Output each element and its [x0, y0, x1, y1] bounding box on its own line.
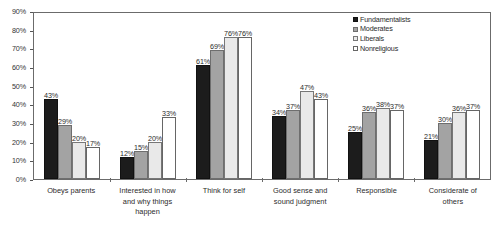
x-axis-label-line: Considerate of — [416, 186, 490, 197]
bar-slot: 25% — [348, 132, 362, 179]
bar[interactable]: 61% — [196, 65, 210, 179]
x-axis-category-label: Responsible — [338, 186, 414, 230]
bar-slot: 76% — [224, 37, 238, 179]
bar[interactable]: 34% — [272, 116, 286, 179]
y-axis: 0%10%20%30%40%50%60%70%80%90% — [0, 12, 30, 180]
bar[interactable]: 29% — [58, 125, 72, 179]
bar[interactable]: 76% — [224, 37, 238, 179]
x-axis-label-line: Interested in how — [110, 186, 184, 197]
bar-slot: 36% — [362, 112, 376, 179]
bar[interactable]: 21% — [424, 140, 438, 179]
bar[interactable]: 12% — [120, 157, 134, 179]
bar-value-label: 69% — [210, 43, 224, 51]
bar-slot: 36% — [452, 112, 466, 179]
bar[interactable]: 76% — [238, 37, 252, 179]
bar-slot: 37% — [286, 110, 300, 179]
x-axis-category-label: Think for self — [186, 186, 262, 230]
x-axis-category-label: Obeys parents — [33, 186, 109, 230]
legend-item-label: Fundamentalists — [360, 16, 410, 24]
bar-slot: 15% — [134, 151, 148, 179]
bar-value-label: 36% — [452, 104, 466, 112]
bar-group: 34%37%47%43% — [262, 13, 338, 179]
x-axis-label-line: Responsible — [339, 186, 413, 197]
bar-slot: 12% — [120, 157, 134, 179]
bar-slot: 33% — [162, 117, 176, 179]
x-axis-category-label: Interested in howand why thingshappen — [109, 186, 185, 230]
legend-item[interactable]: Nonreligious — [353, 44, 444, 54]
bar[interactable]: 36% — [362, 112, 376, 179]
bar-value-label: 21% — [424, 132, 438, 140]
y-axis-tick-label: 50% — [0, 83, 30, 90]
bar-slot: 20% — [72, 142, 86, 179]
bar-slot: 37% — [390, 110, 404, 179]
bar-slot: 29% — [58, 125, 72, 179]
bar-value-label: 38% — [376, 101, 390, 109]
legend-item[interactable]: Fundamentalists — [353, 15, 444, 25]
x-axis-category-label: Good sense andsound judgment — [262, 186, 338, 230]
bar-group: 43%29%20%17% — [34, 13, 110, 179]
y-axis-tick-label: 70% — [0, 46, 30, 53]
bar[interactable]: 69% — [210, 50, 224, 179]
y-axis-tick-label: 0% — [0, 176, 30, 183]
bar-value-label: 43% — [44, 91, 58, 99]
bar[interactable]: 43% — [314, 99, 328, 179]
bar[interactable]: 15% — [134, 151, 148, 179]
bar-slot: 30% — [438, 123, 452, 179]
bar-slot: 20% — [148, 142, 162, 179]
bar-value-label: 20% — [72, 134, 86, 142]
legend-item[interactable]: Liberals — [353, 34, 444, 44]
x-axis-category-labels: Obeys parentsInterested in howand why th… — [33, 186, 491, 230]
bar-value-label: 30% — [438, 116, 452, 124]
bar-group: 61%69%76%76% — [186, 13, 262, 179]
bar[interactable]: 17% — [86, 147, 100, 179]
bar[interactable]: 33% — [162, 117, 176, 179]
bar-value-label: 76% — [238, 30, 252, 38]
bar-value-label: 37% — [466, 102, 480, 110]
bar-value-label: 36% — [362, 104, 376, 112]
bar-slot: 37% — [466, 110, 480, 179]
x-axis-label-line: Think for self — [187, 186, 261, 197]
x-axis-label-line: sound judgment — [263, 197, 337, 208]
x-axis-label-line: Good sense and — [263, 186, 337, 197]
legend-item-label: Moderates — [360, 25, 393, 33]
legend-swatch-icon — [353, 27, 358, 32]
y-axis-tick-label: 80% — [0, 27, 30, 34]
legend-item-label: Nonreligious — [360, 45, 398, 53]
bar[interactable]: 25% — [348, 132, 362, 179]
bar-slot: 47% — [300, 91, 314, 179]
bar-value-label: 33% — [162, 110, 176, 118]
y-axis-tick-label: 10% — [0, 158, 30, 165]
bar-slot: 61% — [196, 65, 210, 179]
x-axis-category-label: Considerate ofothers — [415, 186, 491, 230]
legend-item[interactable]: Moderates — [353, 25, 444, 35]
bar-group: 12%15%20%33% — [110, 13, 186, 179]
bar-value-label: 61% — [196, 58, 210, 66]
bar-slot: 21% — [424, 140, 438, 179]
x-axis-label-line: others — [416, 197, 490, 208]
x-axis-label-line: Obeys parents — [34, 186, 108, 197]
bar[interactable]: 37% — [390, 110, 404, 179]
bar[interactable]: 37% — [286, 110, 300, 179]
bar-value-label: 15% — [134, 144, 148, 152]
bar[interactable]: 20% — [148, 142, 162, 179]
y-axis-tick-mark — [30, 180, 33, 181]
bar[interactable]: 30% — [438, 123, 452, 179]
bar-slot: 76% — [238, 37, 252, 179]
bar-slot: 69% — [210, 50, 224, 179]
bar-value-label: 25% — [348, 125, 362, 133]
bar[interactable]: 47% — [300, 91, 314, 179]
bar-value-label: 43% — [314, 91, 328, 99]
bar-value-label: 47% — [300, 84, 314, 92]
x-axis-label-line: and why things — [110, 197, 184, 208]
bar-value-label: 29% — [58, 117, 72, 125]
bar[interactable]: 36% — [452, 112, 466, 179]
bar[interactable]: 38% — [376, 108, 390, 179]
bar-value-label: 34% — [272, 108, 286, 116]
legend-item-label: Liberals — [360, 35, 384, 43]
bar-chart: 0%10%20%30%40%50%60%70%80%90% 43%29%20%1… — [0, 0, 499, 234]
bar-value-label: 12% — [120, 149, 134, 157]
bar[interactable]: 43% — [44, 99, 58, 179]
bar[interactable]: 37% — [466, 110, 480, 179]
bar[interactable]: 20% — [72, 142, 86, 179]
y-axis-tick-label: 40% — [0, 102, 30, 109]
